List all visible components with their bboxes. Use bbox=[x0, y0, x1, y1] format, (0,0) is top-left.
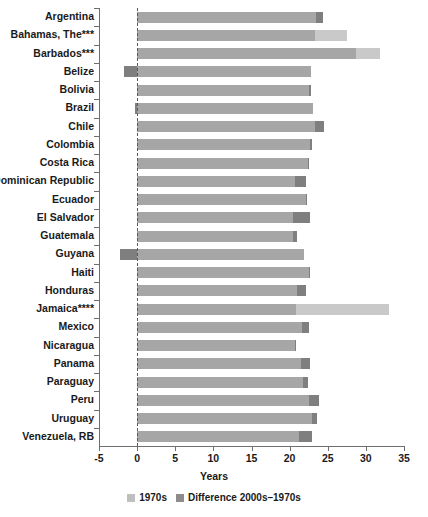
category-label: Uruguay bbox=[51, 413, 94, 424]
y-tick-mark bbox=[94, 355, 99, 356]
bar-segment-difference bbox=[315, 30, 347, 41]
bar-row bbox=[99, 176, 404, 187]
category-label: Bolivia bbox=[60, 84, 94, 95]
bar-segment-1970s bbox=[137, 176, 295, 187]
legend-swatch-difference-icon bbox=[176, 494, 184, 502]
bar-segment-1970s bbox=[137, 358, 301, 369]
bar-row bbox=[99, 85, 404, 96]
bar-row bbox=[99, 103, 404, 114]
bar-segment-difference bbox=[356, 48, 380, 59]
bar-segment-1970s bbox=[137, 212, 293, 223]
bar-segment-difference bbox=[296, 304, 388, 315]
category-label: Peru bbox=[71, 394, 94, 405]
bar-segment-difference bbox=[295, 176, 306, 187]
category-label: Brazil bbox=[65, 102, 94, 113]
y-tick-mark bbox=[94, 318, 99, 319]
bar-segment-difference bbox=[310, 139, 312, 150]
y-tick-mark bbox=[94, 172, 99, 173]
category-label: Honduras bbox=[45, 285, 94, 296]
y-tick-mark bbox=[94, 118, 99, 119]
category-label: Barbados*** bbox=[33, 48, 94, 59]
bar-segment-1970s bbox=[137, 285, 297, 296]
legend-label-1970s: 1970s bbox=[139, 492, 167, 503]
bar-row bbox=[99, 413, 404, 424]
y-tick-mark bbox=[94, 373, 99, 374]
y-tick-mark bbox=[94, 428, 99, 429]
bar-segment-difference bbox=[293, 212, 311, 223]
y-tick-mark bbox=[94, 227, 99, 228]
x-tick-label: 25 bbox=[322, 452, 334, 464]
bar-row bbox=[99, 340, 404, 351]
zero-reference-line bbox=[137, 8, 138, 446]
bar-segment-1970s bbox=[137, 431, 299, 442]
bar-segment-1970s bbox=[137, 48, 356, 59]
plot-area bbox=[99, 8, 404, 446]
bar-segment-1970s bbox=[137, 158, 308, 169]
legend-item-difference: Difference 2000s–1970s bbox=[176, 492, 301, 503]
legend-item-1970s: 1970s bbox=[127, 492, 167, 503]
x-tick-label: 5 bbox=[172, 452, 178, 464]
x-tick-label: 0 bbox=[134, 452, 140, 464]
bar-segment-1970s bbox=[137, 413, 312, 424]
bar-segment-difference bbox=[303, 377, 308, 388]
bar-segment-difference bbox=[293, 231, 298, 242]
bar-segment-1970s bbox=[137, 377, 302, 388]
bar-row bbox=[99, 158, 404, 169]
bar-segment-1970s bbox=[137, 121, 315, 132]
category-label: Belize bbox=[64, 66, 94, 77]
bar-row bbox=[99, 139, 404, 150]
x-tick-mark bbox=[290, 446, 291, 451]
bar-segment-1970s bbox=[137, 66, 311, 77]
y-tick-mark bbox=[94, 81, 99, 82]
bar-row bbox=[99, 395, 404, 406]
y-tick-mark bbox=[94, 264, 99, 265]
bar-segment-1970s bbox=[137, 267, 309, 278]
y-tick-mark bbox=[94, 154, 99, 155]
y-tick-mark bbox=[94, 300, 99, 301]
bar-rows bbox=[99, 8, 404, 446]
x-tick-mark bbox=[137, 446, 138, 451]
category-label: Mexico bbox=[58, 321, 94, 332]
bar-row bbox=[99, 431, 404, 442]
y-tick-mark bbox=[94, 191, 99, 192]
bar-segment-1970s bbox=[137, 85, 309, 96]
y-tick-mark bbox=[94, 136, 99, 137]
bar-row bbox=[99, 231, 404, 242]
bar-segment-1970s bbox=[137, 30, 315, 41]
bar-row bbox=[99, 121, 404, 132]
x-tick-label: 30 bbox=[360, 452, 372, 464]
x-tick-label: 20 bbox=[284, 452, 296, 464]
bar-row bbox=[99, 267, 404, 278]
bar-segment-difference bbox=[306, 194, 307, 205]
x-tick-mark bbox=[366, 446, 367, 451]
category-label: Nicaragua bbox=[43, 340, 94, 351]
x-tick-mark bbox=[213, 446, 214, 451]
category-label: Guyana bbox=[55, 248, 94, 259]
x-tick-label: -5 bbox=[94, 452, 103, 464]
bar-row bbox=[99, 358, 404, 369]
category-label: Jamaica**** bbox=[36, 303, 94, 314]
category-label: Paraguay bbox=[47, 376, 94, 387]
bar-row bbox=[99, 322, 404, 333]
category-label: Colombia bbox=[46, 139, 94, 150]
bar-row bbox=[99, 212, 404, 223]
bar-segment-1970s bbox=[137, 139, 310, 150]
bar-segment-difference bbox=[302, 322, 309, 333]
category-label: Ecuador bbox=[52, 194, 94, 205]
category-label: Dominican Republic bbox=[0, 175, 94, 186]
bar-segment-difference bbox=[297, 285, 306, 296]
y-tick-mark bbox=[94, 209, 99, 210]
bar-row bbox=[99, 48, 404, 59]
bar-segment-1970s bbox=[137, 103, 312, 114]
bar-row bbox=[99, 304, 404, 315]
y-tick-mark bbox=[94, 45, 99, 46]
bar-segment-difference bbox=[301, 358, 310, 369]
x-tick-mark bbox=[99, 446, 100, 451]
bar-row bbox=[99, 285, 404, 296]
category-label: Bahamas, The*** bbox=[11, 29, 94, 40]
y-tick-mark bbox=[94, 245, 99, 246]
x-tick-mark bbox=[404, 446, 405, 451]
category-label: Argentina bbox=[45, 11, 94, 22]
bar-segment-difference bbox=[124, 66, 137, 77]
category-label: Chile bbox=[68, 121, 94, 132]
